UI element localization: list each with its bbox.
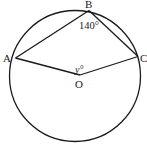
label-o: O (75, 78, 83, 90)
angle-aoc-label: y° (74, 64, 83, 75)
label-c: C (140, 52, 147, 64)
label-a: A (3, 52, 11, 64)
segment-bc (89, 11, 138, 57)
segment-ab (16, 11, 90, 59)
segment-ao (16, 58, 81, 75)
label-b: B (85, 0, 92, 10)
circle (10, 11, 141, 142)
segment-oc (80, 57, 138, 76)
angle-abc-label: 140° (79, 20, 99, 31)
circle-diagram: B A C O 140° y° (0, 0, 147, 144)
